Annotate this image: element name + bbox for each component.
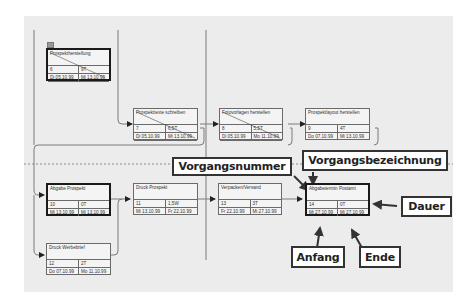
- task-end: Mi 13.10.99: [78, 74, 109, 81]
- task-name: Abgabetermin Postamt: [307, 185, 368, 201]
- task-number: 13: [219, 200, 250, 207]
- task-number: 11: [134, 200, 165, 207]
- task-duration: 0T: [78, 201, 109, 208]
- task-end: Mi 27.10.99: [337, 209, 368, 216]
- task-node-7[interactable]: Prospekttexte schreiben 7 6,5T Di 05.10.…: [133, 108, 198, 140]
- task-number: 9: [306, 125, 337, 132]
- task-node-11[interactable]: Druck Prospekt 11 1,5W Mi 13.10.99 Fr 22…: [133, 183, 198, 215]
- task-duration: 3T: [250, 200, 282, 207]
- task-end: Mo 11.10.99: [251, 133, 283, 140]
- callout-ende: Ende: [359, 246, 401, 268]
- callout-anfang: Anfang: [291, 246, 345, 268]
- task-duration: 4T: [337, 125, 369, 132]
- task-node-13[interactable]: Verpacken/Versand 13 3T Fr 22.10.99 Mi 2…: [218, 183, 282, 215]
- task-duration: 9T: [78, 66, 109, 73]
- callout-vorgangsbezeichnung: Vorgangsbezeichnung: [302, 150, 448, 171]
- task-end: Mi 13.10.99: [337, 133, 369, 140]
- task-end: Mi 13.10.99: [165, 133, 197, 140]
- task-name: Druck Prospekt: [134, 184, 197, 200]
- task-start: Do 07.10.99: [306, 133, 337, 140]
- task-node-14[interactable]: Abgabetermin Postamt 14 0T Mi 27.10.99 M…: [305, 183, 370, 216]
- task-name: Prospektherstellung: [48, 50, 109, 66]
- task-number: 8: [220, 125, 251, 132]
- task-node-8[interactable]: Fotovorlagen herstellen 8 5,5T Di 05.10.…: [219, 108, 283, 140]
- task-end: Fr 22.10.99: [165, 208, 197, 215]
- task-node-12[interactable]: Druck Werbebrief 12 2T Do 07.10.99 Mo 11…: [46, 243, 111, 275]
- task-end: Mo 11.10.99: [78, 268, 110, 275]
- task-duration: 1,5W: [165, 200, 197, 207]
- task-start: Mi 13.10.99: [48, 209, 78, 216]
- task-number: 6: [48, 66, 78, 73]
- task-start: Mi 27.10.99: [307, 209, 337, 216]
- task-start: Di 05.10.99: [48, 74, 78, 81]
- task-start: Di 05.10.99: [134, 133, 165, 140]
- task-duration: 2T: [78, 260, 110, 267]
- task-number: 10: [48, 201, 78, 208]
- task-number: 7: [134, 125, 165, 132]
- task-node-6[interactable]: Prospektherstellung 6 9T Di 05.10.99 Mi …: [46, 48, 111, 81]
- task-name: Prospektlayout herstellen: [306, 109, 369, 125]
- task-name: Druck Werbebrief: [47, 244, 110, 260]
- task-start: Di 05.10.99: [220, 133, 251, 140]
- task-start: Fr 22.10.99: [219, 208, 250, 215]
- task-node-10[interactable]: Abgabe Prospekt 10 0T Mi 13.10.99 Mi 13.…: [46, 183, 111, 216]
- callout-vorgangsnummer: Vorgangsnummer: [172, 157, 292, 176]
- task-start: Do 07.10.99: [47, 268, 78, 275]
- task-number: 12: [47, 260, 78, 267]
- task-end: Mi 13.10.99: [78, 209, 109, 216]
- task-name: Fotovorlagen herstellen: [220, 109, 282, 125]
- callout-dauer: Dauer: [401, 196, 452, 217]
- task-end: Mi 27.10.99: [250, 208, 282, 215]
- task-name: Abgabe Prospekt: [48, 185, 109, 201]
- task-number: 14: [307, 201, 337, 208]
- task-start: Mi 13.10.99: [134, 208, 165, 215]
- task-duration: 6,5T: [165, 125, 197, 132]
- task-node-9[interactable]: Prospektlayout herstellen 9 4T Do 07.10.…: [305, 108, 370, 140]
- task-duration: 5,5T: [251, 125, 283, 132]
- task-name: Verpacken/Versand: [219, 184, 281, 200]
- task-duration: 0T: [337, 201, 368, 208]
- task-name: Prospekttexte schreiben: [134, 109, 197, 125]
